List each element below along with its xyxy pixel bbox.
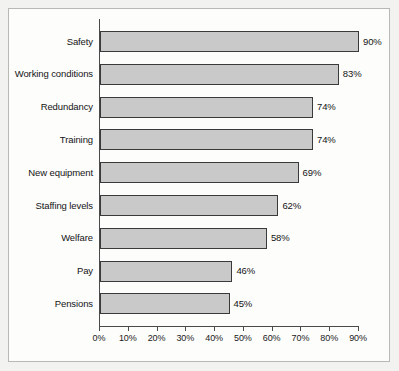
- category-label: Training: [60, 134, 93, 145]
- x-axis-tick: [300, 327, 301, 331]
- category-label: Welfare: [61, 232, 93, 243]
- x-axis-tick-label: 40%: [205, 333, 223, 343]
- bar-value-label: 46%: [236, 265, 255, 276]
- x-axis-tick-label: 80%: [320, 333, 338, 343]
- chart-frame: 0%10%20%30%40%50%60%70%80%90%Safety90%Wo…: [8, 8, 390, 362]
- category-label: Working conditions: [15, 68, 93, 79]
- x-axis-tick-label: 30%: [176, 333, 194, 343]
- bar-value-label: 74%: [317, 101, 336, 112]
- x-axis-line: [99, 326, 359, 327]
- x-axis-tick: [99, 327, 100, 331]
- category-label: Pensions: [55, 298, 93, 309]
- x-axis-tick: [358, 327, 359, 331]
- bar-value-label: 45%: [234, 298, 253, 309]
- x-axis-tick: [329, 327, 330, 331]
- bar: [100, 195, 278, 216]
- bar-value-label: 74%: [317, 134, 336, 145]
- x-axis-tick-label: 90%: [349, 333, 367, 343]
- bar: [100, 129, 313, 150]
- bar-value-label: 69%: [303, 167, 322, 178]
- x-axis-tick: [272, 327, 273, 331]
- x-axis-tick-label: 70%: [292, 333, 310, 343]
- x-axis-tick-label: 50%: [234, 333, 252, 343]
- category-label: Safety: [67, 36, 93, 47]
- category-label: New equipment: [28, 167, 93, 178]
- bar: [100, 162, 299, 183]
- bar-value-label: 90%: [363, 36, 382, 47]
- category-label: Redundancy: [41, 101, 93, 112]
- x-axis-tick-label: 10%: [119, 333, 137, 343]
- x-axis-tick-label: 20%: [148, 333, 166, 343]
- bar: [100, 293, 230, 314]
- bar-value-label: 58%: [271, 232, 290, 243]
- bar-value-label: 62%: [282, 200, 301, 211]
- bar: [100, 261, 232, 282]
- x-axis-tick-label: 60%: [263, 333, 281, 343]
- x-axis-tick: [214, 327, 215, 331]
- x-axis-tick: [128, 327, 129, 331]
- x-axis-tick: [185, 327, 186, 331]
- x-axis-tick: [157, 327, 158, 331]
- category-label: Staffing levels: [36, 200, 93, 211]
- x-axis-tick: [243, 327, 244, 331]
- bar: [100, 64, 339, 85]
- bar-chart-plot-area: 0%10%20%30%40%50%60%70%80%90%Safety90%Wo…: [9, 9, 390, 362]
- bar: [100, 97, 313, 118]
- category-label: Pay: [77, 265, 93, 276]
- x-axis-tick-label: 0%: [93, 333, 106, 343]
- bar-value-label: 83%: [343, 68, 362, 79]
- bar: [100, 31, 359, 52]
- bar: [100, 228, 267, 249]
